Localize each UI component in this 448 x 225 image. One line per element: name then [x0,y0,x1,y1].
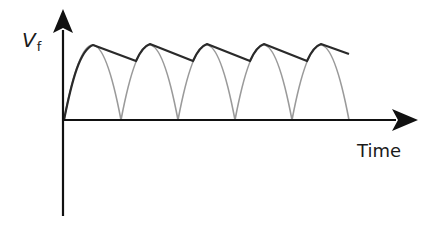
y-axis-label-subscript: f [37,39,42,54]
smoothed-envelope [64,44,349,120]
rectified-wave [64,45,349,120]
y-axis-label-main: V [22,28,37,52]
y-axis [53,9,73,216]
y-axis-label: Vf [22,28,42,54]
y-axis-arrow-icon [53,9,73,33]
x-axis-label: Time [356,140,401,161]
rectified-voltage-diagram: Vf Time [0,0,448,225]
x-axis [62,109,418,131]
